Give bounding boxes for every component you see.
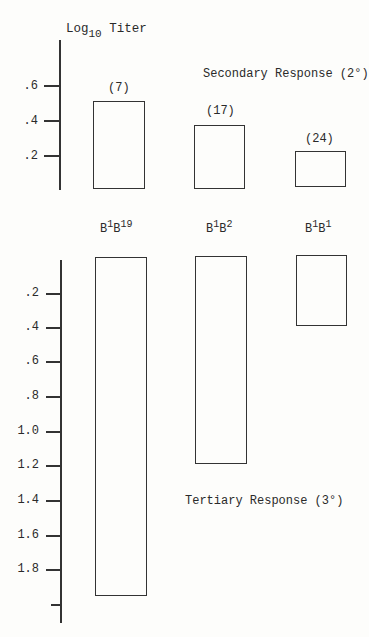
lower-tick — [46, 431, 60, 433]
secondary-bar-b1b2 — [194, 125, 245, 189]
upper-tick-0.2 — [44, 155, 59, 157]
lower-tick-label: 1.4 — [0, 494, 39, 506]
category-label-b1b2: B1B2 — [206, 218, 232, 236]
tertiary-bar-b1b19 — [95, 257, 147, 596]
tertiary-bar-b1b2 — [195, 256, 247, 464]
category-label-b1b1: B1B1 — [305, 218, 331, 236]
lower-tick — [46, 500, 60, 502]
lower-tick-unlabeled — [51, 604, 60, 606]
lower-tick-label: 1.6 — [0, 529, 39, 541]
lower-tick-label: 1.0 — [0, 425, 39, 437]
lower-y-axis — [60, 260, 62, 623]
y-axis-title: Log10 Titer — [66, 22, 147, 41]
lower-tick-label: .2 — [0, 287, 39, 299]
lower-tick-label: .8 — [0, 390, 39, 402]
bar-count-label: (24) — [305, 132, 334, 146]
y-axis-title-rest: Titer — [102, 22, 147, 36]
lower-tick — [46, 396, 60, 398]
lower-tick — [46, 361, 60, 363]
lower-tick — [46, 535, 60, 537]
y-axis-title-main: Log — [66, 22, 89, 36]
upper-tick-label: .4 — [0, 115, 38, 127]
secondary-response-title: Secondary Response (2°) — [203, 67, 369, 81]
upper-tick-label: .2 — [0, 150, 38, 162]
lower-tick — [46, 327, 60, 329]
category-label-b1b19: B1B19 — [100, 218, 132, 236]
upper-tick-0.6 — [44, 85, 59, 87]
lower-tick-label: 1.8 — [0, 563, 39, 575]
lower-tick — [46, 465, 60, 467]
upper-y-axis — [59, 40, 61, 190]
bar-count-label: (7) — [108, 81, 130, 95]
secondary-bar-b1b1 — [295, 151, 346, 187]
upper-tick-0.4 — [44, 120, 59, 122]
tertiary-bar-b1b1 — [296, 255, 347, 326]
lower-tick-label: .4 — [0, 321, 39, 333]
tertiary-response-title: Tertiary Response (3°) — [185, 494, 343, 508]
bar-count-label: (17) — [206, 104, 235, 118]
secondary-bar-b1b19 — [93, 101, 145, 189]
lower-tick — [46, 293, 60, 295]
upper-tick-label: .6 — [0, 80, 38, 92]
y-axis-title-subscript: 10 — [89, 28, 102, 40]
lower-tick-label: .6 — [0, 355, 39, 367]
lower-tick-label: 1.2 — [0, 459, 39, 471]
lower-tick — [46, 569, 60, 571]
